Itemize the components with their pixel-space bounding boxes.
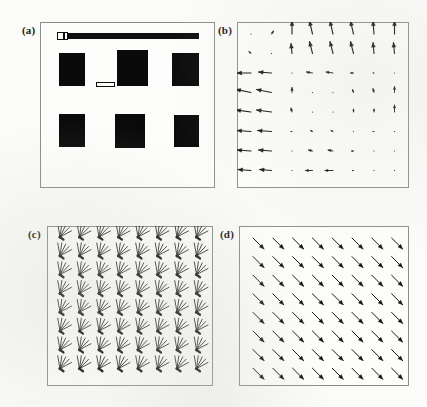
panel-b-vector-r8-c4 bbox=[306, 169, 313, 171]
panel-c-fan-r3-c2 bbox=[77, 262, 91, 277]
arrow-head bbox=[329, 22, 333, 26]
panel-a-label: (a) bbox=[22, 24, 35, 36]
arrow-head bbox=[237, 148, 242, 152]
panel-b-vector-r5-c3 bbox=[291, 108, 293, 112]
panel-c-fan-r5-c1 bbox=[58, 299, 72, 314]
panel-b-vector-r8-c7 bbox=[373, 170, 374, 171]
panel-d-vector-field bbox=[239, 226, 409, 386]
panel-c-fan-r7-c7 bbox=[175, 337, 189, 352]
panel-d-vector-r8-c5 bbox=[332, 368, 343, 379]
panel-a-frame bbox=[40, 22, 215, 188]
panel-b-vector-r4-c1 bbox=[237, 88, 251, 92]
fan-ray-5 bbox=[155, 356, 157, 369]
panel-d-vector-r1-c4 bbox=[312, 238, 323, 249]
null-vector-dot bbox=[250, 33, 251, 34]
fan-head-stub bbox=[99, 369, 102, 372]
arrow-head bbox=[373, 73, 374, 74]
fan-ray-5 bbox=[155, 281, 157, 294]
fan-head-stub bbox=[158, 293, 161, 296]
fan-head-stub bbox=[158, 256, 161, 259]
fan-head-stub bbox=[119, 275, 122, 278]
panel-c-fan-r3-c7 bbox=[175, 262, 189, 277]
panel-b-vector-r2-c5 bbox=[329, 42, 333, 54]
panel-b-vector-r1-c6 bbox=[350, 22, 354, 34]
null-vector-dot bbox=[291, 72, 292, 73]
fan-head-stub bbox=[80, 331, 83, 334]
fan-ray-5 bbox=[194, 281, 196, 294]
panel-c-fan-r2-c5 bbox=[136, 243, 150, 258]
panel-b-vector-r6-c5 bbox=[331, 131, 333, 132]
fan-head-stub bbox=[119, 369, 122, 372]
fan-ray-5 bbox=[77, 356, 79, 369]
arrow-head bbox=[350, 22, 354, 26]
panel-b-vector-r4-c7 bbox=[373, 89, 375, 93]
panel-c-fan-r8-c3 bbox=[97, 356, 111, 371]
fan-ray-5 bbox=[97, 299, 99, 312]
panel-d-vector-r7-c3 bbox=[293, 350, 304, 361]
panel-c-fan-r8-c8 bbox=[194, 356, 208, 371]
panel-b-vector-r1-c3 bbox=[290, 22, 294, 34]
panel-d-vector-r5-c2 bbox=[273, 312, 284, 323]
panel-b-vector-r5-c6 bbox=[353, 109, 355, 112]
fan-ray-5 bbox=[97, 337, 99, 350]
arrow-head bbox=[309, 22, 313, 26]
arrow-head bbox=[329, 42, 333, 47]
fan-head-stub bbox=[99, 312, 102, 315]
panel-d-vector-r6-c8 bbox=[392, 331, 403, 342]
panel-b-vector-r7-c2 bbox=[259, 148, 272, 152]
panel-c-fan-r1-c4 bbox=[116, 226, 130, 240]
panel-a-top-bar-cap-divider bbox=[63, 33, 65, 39]
panel-c-fan-r3-c1 bbox=[58, 262, 72, 277]
panel-c-fan-r8-c7 bbox=[175, 356, 189, 371]
panel-c-fan-r8-c4 bbox=[116, 356, 130, 371]
panel-d-vector-r1-c2 bbox=[273, 238, 284, 249]
fan-head-stub bbox=[80, 293, 83, 296]
fan-head-stub bbox=[138, 256, 141, 259]
panel-c-label: (c) bbox=[28, 228, 41, 240]
panel-d-vector-r2-c4 bbox=[312, 257, 323, 268]
fan-ray-5 bbox=[136, 299, 138, 312]
fan-head-stub bbox=[99, 256, 102, 259]
panel-b-vector-r2-c8 bbox=[392, 43, 396, 54]
fan-ray-5 bbox=[175, 226, 177, 237]
panel-d-vector-r7-c6 bbox=[352, 350, 363, 361]
panel-c-fan-r2-c3 bbox=[97, 243, 111, 258]
panel-c-fan-r1-c6 bbox=[155, 226, 169, 240]
panel-b-vector-r8-c1 bbox=[238, 168, 251, 172]
panel-d-vector-r1-c6 bbox=[352, 238, 363, 249]
fan-head-stub bbox=[138, 275, 141, 278]
arrow-head bbox=[237, 71, 242, 75]
fan-ray-5 bbox=[116, 243, 118, 256]
panel-c-fan-r1-c2 bbox=[77, 226, 91, 240]
arrow-head bbox=[351, 72, 353, 74]
fan-ray-5 bbox=[58, 262, 60, 275]
fan-head-stub bbox=[119, 331, 122, 334]
panel-c-fan-r5-c2 bbox=[77, 299, 91, 314]
panel-d-vector-r4-c1 bbox=[253, 294, 264, 305]
null-vector-dot bbox=[394, 131, 395, 132]
panel-d-vector-r7-c7 bbox=[372, 350, 383, 361]
panel-c-fan-field bbox=[47, 226, 213, 386]
panel-c-fan-r4-c2 bbox=[77, 281, 91, 296]
fan-ray-5 bbox=[77, 262, 79, 275]
panel-d-vector-r3-c2 bbox=[273, 275, 284, 286]
panel-d-vector-r7-c5 bbox=[332, 350, 343, 361]
null-vector-dot bbox=[332, 92, 333, 93]
panel-d-vector-r8-c2 bbox=[273, 368, 284, 379]
panel-b-vector-r5-c1 bbox=[237, 109, 251, 113]
arrow-head bbox=[373, 131, 374, 132]
fan-head-stub bbox=[197, 350, 200, 353]
fan-head-stub bbox=[177, 331, 180, 334]
panel-b-vector-r6-c2 bbox=[258, 129, 272, 133]
fan-head-stub bbox=[177, 237, 180, 240]
panel-d-vector-r6-c4 bbox=[312, 331, 323, 342]
fan-ray-5 bbox=[77, 299, 79, 312]
panel-b-vector-r8-c5 bbox=[325, 169, 333, 171]
null-vector-dot bbox=[332, 111, 333, 112]
panel-c-fan-r2-c2 bbox=[77, 243, 91, 258]
panel-d-vector-r6-c3 bbox=[293, 331, 304, 342]
arrow-head bbox=[291, 108, 293, 111]
arrow-head bbox=[258, 129, 263, 133]
panel-d-vector-r1-c7 bbox=[372, 238, 383, 249]
fan-ray-5 bbox=[155, 226, 157, 237]
